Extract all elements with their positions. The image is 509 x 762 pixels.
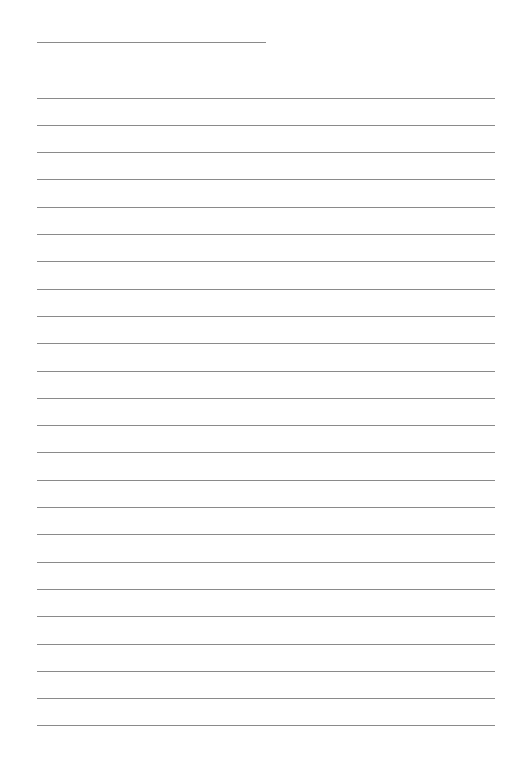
ruled-line — [37, 452, 495, 453]
ruled-line — [37, 289, 495, 290]
ruled-line — [37, 480, 495, 481]
ruled-line — [37, 316, 495, 317]
ruled-line — [37, 398, 495, 399]
ruled-line — [37, 534, 495, 535]
title-write-line — [37, 42, 266, 43]
ruled-line — [37, 125, 495, 126]
ruled-line — [37, 589, 495, 590]
ruled-line — [37, 234, 495, 235]
ruled-line — [37, 562, 495, 563]
ruled-line — [37, 207, 495, 208]
ruled-line — [37, 425, 495, 426]
lined-paper-sheet — [0, 0, 509, 762]
ruled-line — [37, 261, 495, 262]
ruled-line — [37, 152, 495, 153]
ruled-line — [37, 644, 495, 645]
ruled-line — [37, 343, 495, 344]
ruled-line — [37, 507, 495, 508]
ruled-line — [37, 616, 495, 617]
ruled-line — [37, 698, 495, 699]
ruled-line — [37, 179, 495, 180]
ruled-line — [37, 725, 495, 726]
ruled-line — [37, 98, 495, 99]
ruled-line — [37, 671, 495, 672]
ruled-line — [37, 371, 495, 372]
